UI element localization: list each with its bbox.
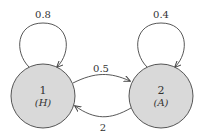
edge-2-to-1: 2 — [75, 106, 131, 133]
node-2-sublabel: (A) — [153, 97, 168, 108]
self-loop-1: 0.8 — [20, 9, 67, 67]
node-2-label: 2 — [158, 84, 165, 97]
node-1-label: 1 — [40, 84, 47, 97]
edge-label-2-1: 2 — [100, 122, 106, 133]
self-loop-2: 0.4 — [138, 9, 185, 67]
edge-label-1-2: 0.5 — [93, 63, 109, 74]
edge-label-2-2: 0.4 — [153, 9, 169, 20]
edge-label-1-1: 0.8 — [35, 9, 51, 20]
state-diagram: 0.8 0.4 0.5 2 1 (H) 2 (A) — [0, 0, 202, 137]
node-2: 2 (A) — [129, 64, 193, 128]
edge-1-to-2: 0.5 — [73, 63, 130, 83]
node-1-sublabel: (H) — [35, 97, 52, 108]
node-1: 1 (H) — [11, 64, 75, 128]
